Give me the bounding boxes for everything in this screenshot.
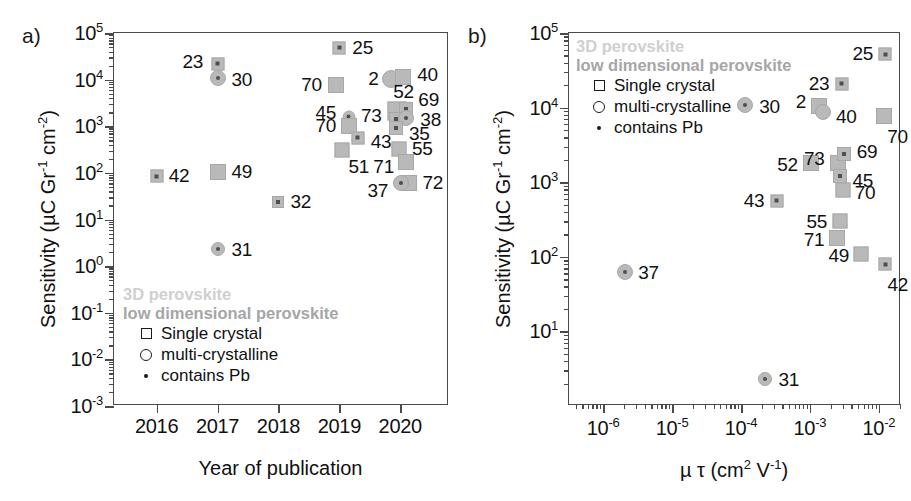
contains-pb-dot-icon (775, 199, 779, 203)
x-tick-minor (600, 404, 601, 409)
data-point-marker (333, 41, 346, 54)
y-tick-minor (564, 264, 569, 265)
x-tick-minor (624, 404, 625, 409)
data-point-label: 2 (796, 91, 806, 113)
y-tick-minor (109, 280, 114, 281)
x-tick-minor (851, 404, 852, 409)
data-point-marker (351, 131, 364, 144)
y-tick-minor (109, 35, 114, 36)
data-point-label: 71 (804, 229, 825, 251)
y-tick-minor (109, 137, 114, 138)
y-tick-minor (109, 362, 114, 363)
x-tick-major (810, 404, 812, 413)
y-tick-major (560, 108, 569, 110)
y-tick-minor (564, 50, 569, 51)
y-tick-minor (109, 87, 114, 88)
panel-a-x-axis-title: Year of publication (199, 457, 363, 480)
y-tick-minor (109, 276, 114, 277)
data-point-label: 31 (232, 239, 253, 261)
y-tick-label: 105 (529, 20, 558, 45)
y-tick-minor (109, 205, 114, 206)
x-tick-major (672, 404, 674, 413)
contains-pb-dot-icon (155, 174, 159, 178)
x-tick-minor (661, 404, 662, 409)
x-tick-minor (665, 404, 666, 409)
data-point-label: 70 (301, 74, 322, 96)
y-tick-minor (564, 335, 569, 336)
x-tick-minor (738, 404, 739, 409)
legend-row-contains-pb: contains Pb (123, 365, 338, 386)
y-tick-minor (564, 36, 569, 37)
x-tick-minor (582, 404, 583, 409)
y-tick-minor (109, 299, 114, 300)
y-tick-minor (109, 222, 114, 223)
x-tick-minor (693, 404, 694, 409)
data-point-marker (617, 264, 633, 280)
data-point-label: 42 (169, 165, 190, 187)
data-point-label: 23 (183, 51, 204, 73)
legend-row-contains-pb: contains Pb (576, 117, 791, 138)
data-point-label: 70 (855, 182, 876, 204)
y-tick-minor (109, 52, 114, 53)
contains-pb-dot-icon (337, 46, 341, 50)
y-tick-minor (564, 370, 569, 371)
data-point-marker (815, 104, 831, 120)
panel-a-letter: a) (22, 24, 41, 48)
y-tick-label: 104 (529, 95, 558, 120)
y-tick-minor (109, 224, 114, 225)
circle-marker-icon (586, 101, 612, 113)
x-tick-minor (799, 404, 800, 409)
x-tick-minor (868, 404, 869, 409)
data-point-marker (854, 246, 869, 261)
data-point-marker (150, 170, 163, 183)
y-tick-minor (109, 159, 114, 160)
y-tick-minor (109, 378, 114, 379)
data-point-label: 73 (804, 148, 825, 170)
x-tick-major (741, 404, 743, 413)
y-tick-minor (564, 309, 569, 310)
y-tick-minor (109, 191, 114, 192)
data-point-marker (393, 175, 409, 191)
y-tick-minor (109, 180, 114, 181)
x-tick-label: 10-6 (587, 415, 620, 440)
x-tick-label: 2016 (135, 415, 178, 438)
x-tick-label: 2019 (318, 415, 361, 438)
y-tick-minor (564, 268, 569, 269)
y-tick-minor (564, 205, 569, 206)
data-point-label: 32 (290, 191, 311, 213)
legend-label-multi-crystalline: multi-crystalline (614, 97, 731, 117)
y-tick-label: 104 (74, 67, 103, 92)
data-point-label: 51 (348, 156, 369, 178)
y-tick-minor (109, 244, 114, 245)
y-tick-minor (109, 234, 114, 235)
y-tick-minor (109, 94, 114, 95)
y-tick-minor (109, 82, 114, 83)
data-point-marker (389, 121, 403, 135)
y-tick-label: 102 (74, 160, 103, 185)
data-point-label: 73 (361, 105, 382, 127)
x-tick-minor (900, 404, 901, 409)
y-tick-minor (564, 186, 569, 187)
legend-row-multi-crystalline: multi-crystalline (576, 96, 791, 117)
legend-heading-3d: 3D perovskite (123, 285, 338, 304)
data-point-label: 42 (887, 274, 908, 296)
x-tick-minor (576, 404, 577, 409)
y-tick-minor (109, 40, 114, 41)
x-tick-minor (592, 404, 593, 409)
contains-pb-dot-icon (216, 76, 220, 80)
x-tick-label: 10-4 (725, 415, 758, 440)
figure-root: a) 10-310-210-11001011021031041052016201… (0, 0, 911, 501)
y-tick-minor (564, 234, 569, 235)
x-tick-label: 2017 (196, 415, 239, 438)
y-tick-minor (564, 260, 569, 261)
y-tick-minor (564, 296, 569, 297)
y-tick-minor (109, 145, 114, 146)
y-tick-minor (109, 84, 114, 85)
x-tick-minor (782, 404, 783, 409)
y-tick-major (560, 182, 569, 184)
x-tick-minor (872, 404, 873, 409)
square-marker-icon (586, 80, 612, 91)
y-tick-minor (564, 354, 569, 355)
data-point-marker (328, 77, 344, 93)
x-tick-label: 10-5 (656, 415, 689, 440)
